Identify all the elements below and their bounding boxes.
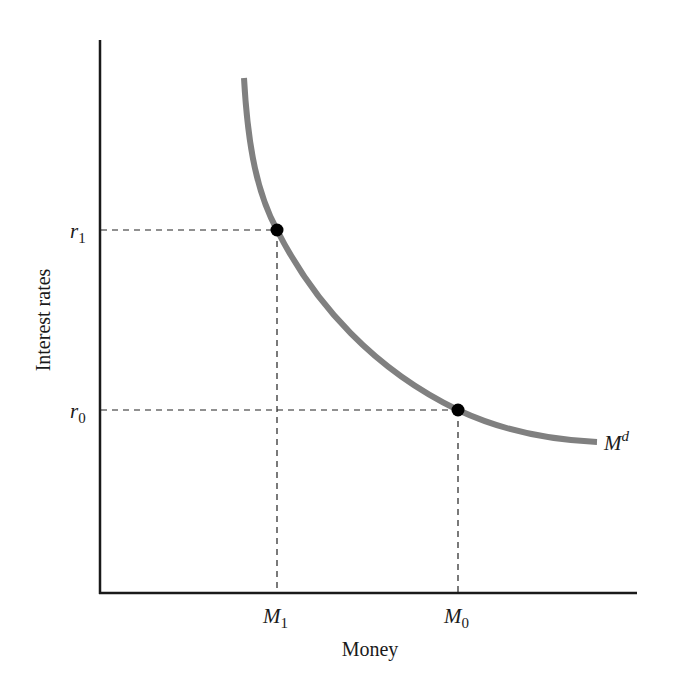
point-r0-m0 bbox=[452, 404, 465, 417]
curve-label-md: Md bbox=[603, 428, 630, 455]
y-axis-title: Interest rates bbox=[32, 268, 54, 371]
money-demand-chart: r1 r0 M1 M0 Money Interest rates Md bbox=[0, 0, 673, 685]
x-tick-m0: M0 bbox=[443, 604, 469, 631]
x-axis-title: Money bbox=[342, 638, 399, 661]
y-tick-r1: r1 bbox=[70, 219, 86, 246]
point-r1-m1 bbox=[271, 224, 284, 237]
y-tick-r0: r0 bbox=[70, 399, 86, 426]
money-demand-curve bbox=[244, 78, 597, 442]
axes bbox=[99, 40, 637, 594]
x-tick-m1: M1 bbox=[262, 604, 288, 631]
guide-lines bbox=[101, 230, 458, 593]
